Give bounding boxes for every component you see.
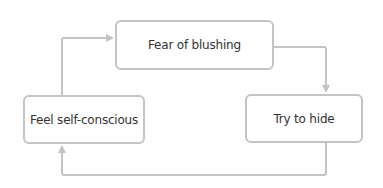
node-try-to-hide: Try to hide: [245, 94, 363, 143]
arrow-selfconscious-to-fear: [62, 38, 112, 95]
node-label: Try to hide: [273, 112, 334, 126]
node-label: Feel self-conscious: [30, 113, 138, 127]
arrow-fear-to-hide: [274, 47, 326, 91]
node-fear-of-blushing: Fear of blushing: [115, 20, 274, 70]
arrow-hide-to-selfconscious: [62, 143, 326, 175]
node-label: Fear of blushing: [148, 38, 241, 52]
node-feel-self-conscious: Feel self-conscious: [23, 95, 145, 144]
